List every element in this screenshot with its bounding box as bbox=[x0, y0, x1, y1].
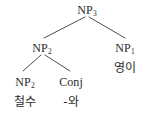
branch-leftnp-to-inner-np bbox=[23, 55, 41, 71]
node-left-np-category: NP bbox=[32, 41, 48, 55]
terminal-left-word: 철수 bbox=[14, 96, 36, 108]
node-right-np-subscript: 1 bbox=[131, 47, 135, 56]
node-inner-left-np: NP2 bbox=[15, 76, 34, 89]
terminal-conj-word: -와 bbox=[63, 96, 78, 108]
branch-root-to-right-np bbox=[89, 17, 125, 38]
node-inner-left-np-category: NP bbox=[15, 75, 31, 89]
node-right-np: NP1 bbox=[115, 42, 134, 55]
node-conj-category: Conj bbox=[59, 75, 83, 89]
node-conj: Conj bbox=[59, 76, 83, 89]
terminal-right-word: 영이 bbox=[114, 62, 136, 74]
node-root-np: NP3 bbox=[77, 4, 96, 17]
branch-leftnp-to-conj bbox=[45, 55, 70, 71]
node-left-np-subscript: 2 bbox=[48, 47, 52, 56]
branch-root-to-left-np bbox=[44, 17, 85, 38]
node-right-np-category: NP bbox=[115, 41, 131, 55]
node-root-np-category: NP bbox=[77, 3, 93, 17]
node-left-np: NP2 bbox=[32, 42, 51, 55]
node-inner-left-np-subscript: 2 bbox=[31, 81, 35, 90]
node-root-np-subscript: 3 bbox=[93, 9, 97, 18]
syntax-tree-figure: NP3 NP2 NP1 NP2 Conj 철수 -와 영이 bbox=[0, 0, 151, 118]
